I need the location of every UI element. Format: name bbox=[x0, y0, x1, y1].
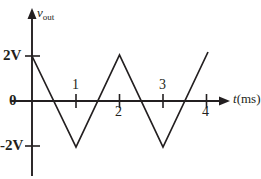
x-axis-label-4: 4 bbox=[202, 105, 209, 119]
plot-canvas bbox=[0, 0, 261, 179]
x-axis-title: t(ms) bbox=[233, 92, 260, 105]
y-axis-title-subscript: out bbox=[43, 12, 55, 22]
x-axis-title-unit: (ms) bbox=[237, 91, 261, 106]
y-axis-title: vout bbox=[37, 6, 54, 19]
y-axis-title-variable: v bbox=[37, 5, 43, 20]
origin-label: 0 bbox=[9, 93, 17, 108]
y-axis-arrow-icon bbox=[28, 8, 37, 19]
y-axis-label-2v: 2V bbox=[3, 48, 21, 63]
waveform-figure: 2V 0 -2V 1 2 3 4 vout t(ms) bbox=[0, 0, 261, 179]
x-axis-label-1: 1 bbox=[72, 78, 79, 92]
x-axis-arrow-icon bbox=[219, 97, 230, 106]
y-axis-label-neg-2v: -2V bbox=[0, 138, 23, 153]
x-axis-label-3: 3 bbox=[159, 78, 166, 92]
x-axis-label-2: 2 bbox=[115, 105, 122, 119]
